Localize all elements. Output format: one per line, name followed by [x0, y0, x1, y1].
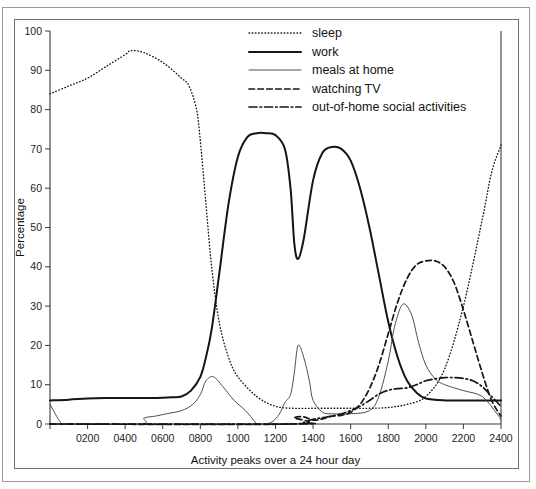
legend-label: sleep	[312, 26, 342, 40]
x-tick-label: 2400	[489, 432, 513, 444]
legend-key-icon	[247, 26, 303, 40]
legend-key-icon	[247, 100, 303, 114]
legend-item-out-of-home-social-activities: out-of-home social activities	[247, 98, 497, 117]
y-tick-label: 70	[30, 143, 42, 155]
legend-key-icon	[247, 45, 303, 59]
chart-legend: sleepworkmeals at homewatching TVout-of-…	[247, 24, 497, 117]
y-tick-label: 10	[30, 378, 42, 390]
y-tick-label: 60	[30, 182, 42, 194]
x-tick-label: 1600	[339, 432, 363, 444]
y-tick-label: 40	[30, 260, 42, 272]
x-tick-label: 1000	[226, 432, 250, 444]
legend-key-icon	[247, 82, 303, 96]
x-tick-label: 0400	[113, 432, 137, 444]
y-tick-label: 0	[36, 418, 42, 430]
y-tick-label: 100	[24, 25, 42, 37]
x-tick-label: 0200	[76, 432, 100, 444]
legend-label: watching TV	[312, 82, 381, 96]
legend-key-icon	[247, 63, 303, 77]
x-tick-label: 1800	[377, 432, 401, 444]
x-tick-label: 2200	[452, 432, 476, 444]
x-axis-title: Activity peaks over a 24 hour day	[191, 454, 361, 466]
series-work	[50, 133, 501, 401]
x-tick-label: 2000	[414, 432, 438, 444]
y-tick-label: 80	[30, 103, 42, 115]
x-tick-label: 1200	[264, 432, 288, 444]
legend-label: meals at home	[312, 63, 394, 77]
x-tick-label: 1400	[301, 432, 325, 444]
x-tick-label: 0600	[151, 432, 175, 444]
series-meals-at-home	[50, 304, 501, 425]
x-tick-label: 0800	[189, 432, 213, 444]
legend-label: work	[312, 45, 338, 59]
y-tick-label: 90	[30, 64, 42, 76]
series-out-of-home-social-activities	[50, 378, 501, 425]
legend-item-work: work	[247, 43, 497, 62]
y-tick-label: 50	[30, 221, 42, 233]
legend-label: out-of-home social activities	[312, 100, 466, 114]
y-tick-label: 30	[30, 300, 42, 312]
legend-item-sleep: sleep	[247, 24, 497, 43]
y-tick-label: 20	[30, 339, 42, 351]
chart-page: 0102030405060708090100020004000600080010…	[0, 0, 536, 489]
y-axis-title: Percentage	[14, 198, 26, 257]
legend-item-meals-at-home: meals at home	[247, 61, 497, 80]
legend-item-watching-tv: watching TV	[247, 80, 497, 99]
